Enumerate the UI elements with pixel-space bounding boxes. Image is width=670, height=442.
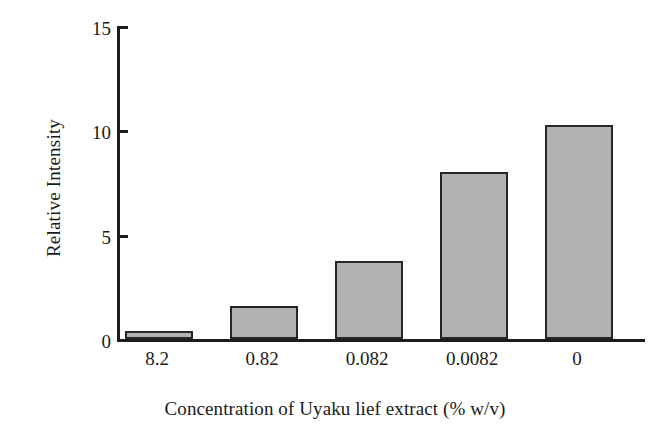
y-tick-label-15: 15 — [92, 18, 111, 37]
x-axis-tick-labels: 8.2 0.82 0.082 0.0082 0 — [117, 348, 645, 376]
y-tick-label-10: 10 — [92, 122, 111, 141]
bar-slot-2 — [335, 261, 403, 339]
bar-slot-3 — [440, 172, 508, 339]
bar-8.2 — [125, 331, 193, 339]
bar-slot-0 — [125, 331, 193, 339]
x-tick-label-2: 0.082 — [331, 348, 403, 371]
x-tick-label-0: 8.2 — [121, 348, 193, 371]
plot-area: 15 10 5 0 — [117, 26, 645, 341]
bar-0.0082 — [440, 172, 508, 339]
x-tick-label-1: 0.82 — [226, 348, 298, 371]
bar-chart-figure: Relative Intensity 15 10 5 0 — [0, 0, 670, 442]
x-tick-label-4: 0 — [541, 348, 613, 371]
y-tick-label-0: 0 — [102, 331, 112, 350]
bar-0 — [545, 125, 613, 339]
bar-0.82 — [230, 306, 298, 339]
bar-0.082 — [335, 261, 403, 339]
x-tick-label-3: 0.0082 — [436, 348, 508, 371]
x-axis-title: Concentration of Uyaku lief extract (% w… — [0, 398, 670, 420]
y-tick-label-5: 5 — [102, 227, 112, 246]
bar-series — [120, 26, 645, 341]
bar-slot-1 — [230, 306, 298, 339]
y-axis-title: Relative Intensity — [26, 18, 82, 358]
bar-slot-4 — [545, 125, 613, 339]
